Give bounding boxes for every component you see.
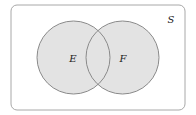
universe-label: S [168,14,175,25]
set-e-label: E [68,53,77,64]
set-f-label: F [119,53,128,64]
venn-diagram: E F S [0,0,196,115]
